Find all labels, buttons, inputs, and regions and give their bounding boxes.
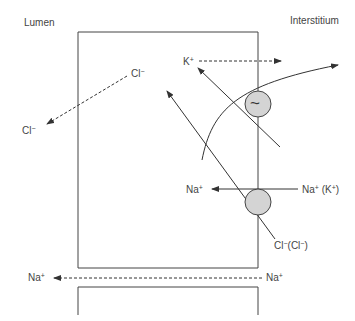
ion-label-na-k-interstitium: Na+ (K+) bbox=[302, 185, 339, 195]
ion-label-k-cell: K+ bbox=[183, 57, 194, 67]
ion-label-cl-cl-interstitium: Cl−(Cl−) bbox=[274, 241, 308, 251]
channel-symbol: ~ bbox=[250, 95, 260, 112]
ion-label-cl-cell: Cl− bbox=[131, 69, 145, 79]
cl-exit-dashed-arrow bbox=[47, 76, 127, 124]
diagram-canvas bbox=[0, 0, 355, 321]
ion-label-cl-lumen: Cl− bbox=[22, 126, 36, 136]
ion-label-na-paracellular-right: Na+ bbox=[266, 273, 283, 283]
ion-label-na-paracellular-left: Na+ bbox=[28, 273, 45, 283]
region-label-lumen: Lumen bbox=[24, 18, 55, 28]
region-label-interstitium: Interstitium bbox=[290, 16, 339, 26]
ion-label-na-cell: Na+ bbox=[186, 185, 203, 195]
cotransporter bbox=[245, 189, 271, 215]
curved-flow-arrow bbox=[202, 65, 338, 160]
cell-outline bbox=[78, 32, 258, 268]
lower-cell-outline bbox=[78, 287, 258, 315]
